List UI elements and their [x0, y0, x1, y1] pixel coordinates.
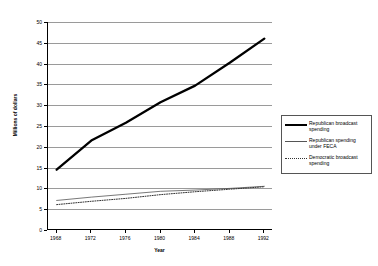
legend-swatch-thin-line-icon — [285, 137, 307, 146]
y-axis-tick-label: 35 — [24, 82, 42, 87]
legend-swatch-thick-line-icon — [285, 120, 307, 129]
y-axis-tick-label: 15 — [24, 165, 42, 170]
series-line — [57, 187, 265, 205]
y-axis-tick-label: 30 — [24, 103, 42, 108]
x-axis-tick-mark — [194, 230, 195, 233]
legend-label: Republican spending under FECA — [309, 137, 368, 149]
x-axis-tick-mark — [160, 230, 161, 233]
x-axis-tick-label: 1976 — [110, 235, 140, 241]
x-axis-tick-mark — [125, 230, 126, 233]
x-axis-tick-label: 1972 — [75, 235, 105, 241]
x-axis-tick-label: 1988 — [214, 235, 244, 241]
legend-item-republican-broadcast: Republican broadcast spending — [285, 120, 368, 135]
line-chart: Millions of dollars 05101520253035404550… — [0, 0, 378, 266]
y-axis-tick-label: 20 — [24, 144, 42, 149]
series-lines — [48, 22, 273, 230]
x-axis-tick-mark — [229, 230, 230, 233]
x-axis-title: Year — [47, 247, 272, 253]
legend-label: Republican broadcast spending — [309, 120, 368, 132]
x-axis-tick-mark — [56, 230, 57, 233]
x-axis-tick-label: 1992 — [248, 235, 278, 241]
chart-legend: Republican broadcast spending Republican… — [281, 115, 372, 174]
legend-swatch-dotted-line-icon — [285, 154, 307, 163]
x-axis-tick-label: 1984 — [179, 235, 209, 241]
x-axis-tick-label: 1980 — [145, 235, 175, 241]
series-line — [57, 39, 265, 170]
y-axis-tick-label: 50 — [24, 20, 42, 25]
x-axis-tick-mark — [263, 230, 264, 233]
x-axis: 1968197219761980198419881992 — [47, 230, 272, 246]
y-axis-tick-label: 25 — [24, 124, 42, 129]
y-axis-tick-label: 0 — [24, 228, 42, 233]
legend-item-republican-feca: Republican spending under FECA — [285, 137, 368, 152]
plot-area — [47, 22, 272, 230]
y-axis-tick-label: 5 — [24, 207, 42, 212]
legend-item-democratic-broadcast: Democratic broadcast spending — [285, 154, 368, 169]
legend-label: Democratic broadcast spending — [309, 154, 368, 166]
y-axis-title: Millions of dollars — [12, 70, 18, 160]
y-axis: 05101520253035404550 — [22, 22, 47, 230]
series-line — [57, 186, 265, 200]
y-axis-tick-label: 45 — [24, 40, 42, 45]
x-axis-tick-mark — [90, 230, 91, 233]
y-axis-tick-label: 40 — [24, 61, 42, 66]
x-axis-tick-label: 1968 — [41, 235, 71, 241]
y-axis-tick-label: 10 — [24, 186, 42, 191]
